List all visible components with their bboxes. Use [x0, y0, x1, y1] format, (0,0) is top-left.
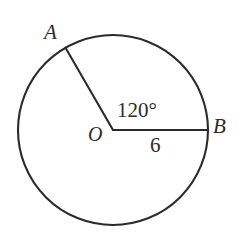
radius-length-label: 6 [150, 135, 161, 156]
point-label-b: B [213, 116, 226, 137]
central-angle-label: 120° [117, 100, 157, 121]
geometry-figure: A B O 120° 6 [0, 0, 245, 237]
point-label-a: A [44, 22, 57, 43]
radius-line-oa [66, 48, 114, 130]
center-label-o: O [88, 124, 102, 144]
